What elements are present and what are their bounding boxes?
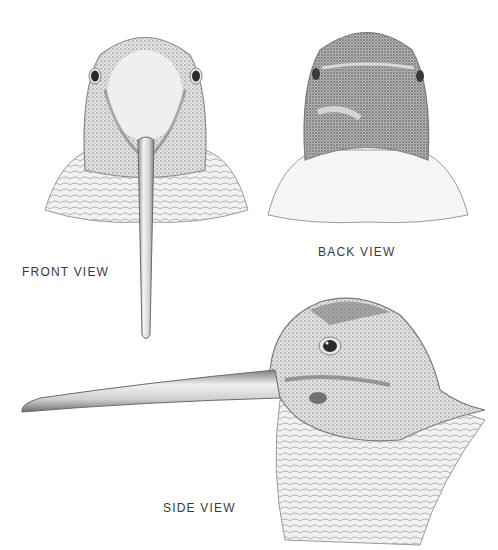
illustration-canvas: FRONT VIEW BACK VIEW SIDE VIEW	[0, 0, 498, 550]
eye-icon	[312, 68, 320, 80]
eye-icon	[319, 337, 341, 355]
side-view-drawing	[22, 298, 485, 545]
eye-icon	[89, 68, 101, 84]
front-view-label: FRONT VIEW	[22, 265, 109, 279]
eye-icon	[190, 68, 202, 84]
side-view-label: SIDE VIEW	[163, 501, 236, 515]
back-view-drawing	[268, 33, 468, 223]
eye-icon	[416, 70, 424, 82]
back-view-label: BACK VIEW	[318, 245, 395, 259]
front-view-drawing	[45, 38, 248, 339]
